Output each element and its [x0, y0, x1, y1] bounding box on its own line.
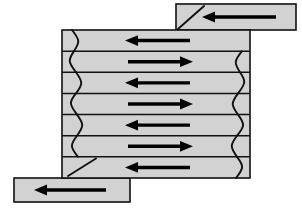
diagram-canvas	[0, 0, 302, 212]
outlet-channel	[14, 178, 130, 202]
flow-field-plate	[62, 30, 250, 178]
serpentine-flow-diagram	[0, 0, 302, 212]
inlet-channel	[176, 4, 296, 30]
